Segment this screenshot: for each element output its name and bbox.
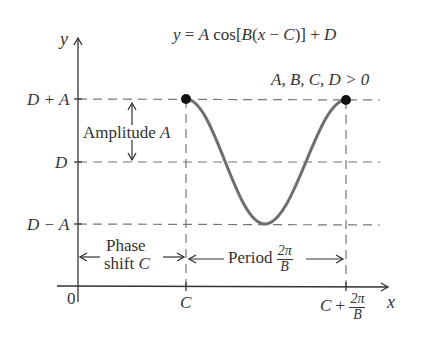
x-tick-c: C: [180, 294, 191, 311]
x-axis: [57, 286, 388, 287]
max-point-left: [181, 94, 191, 104]
max-point-right: [341, 95, 351, 105]
x-axis-label: x: [387, 293, 395, 311]
period-label: Period 2πB: [228, 244, 293, 274]
period-num: 2π: [277, 244, 293, 260]
y-tick-d-minus-a: D − A: [27, 216, 69, 233]
x-tick-num: 2π: [349, 292, 365, 308]
phase-label-line1: Phase: [106, 237, 146, 254]
amplitude-label: Amplitude A: [83, 124, 170, 141]
period-den: B: [277, 260, 293, 275]
condition-label: A, B, C, D > 0: [271, 71, 369, 88]
y-tick-d: D: [55, 154, 67, 171]
y-axis-label: y: [60, 30, 68, 48]
y-tick-d-plus-a: D + A: [27, 91, 69, 108]
x-tick-den: B: [349, 308, 365, 323]
phase-label-line2: shift C: [104, 255, 150, 272]
period-word: Period: [228, 248, 272, 267]
x-tick-c-plus-period: C + 2πB: [320, 292, 365, 322]
equation-title: y = A cos[B(x − C)] + D: [173, 26, 336, 43]
origin-label: 0: [67, 290, 76, 307]
